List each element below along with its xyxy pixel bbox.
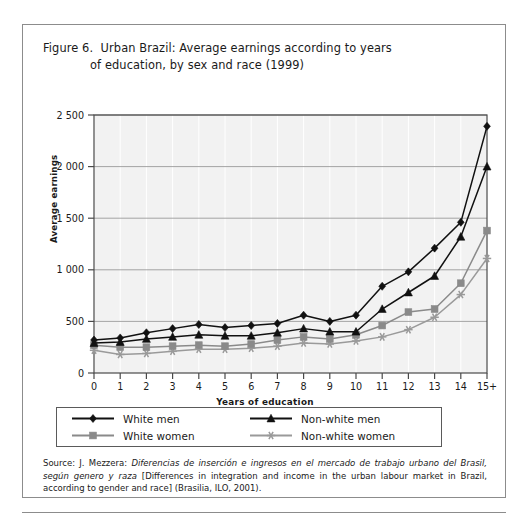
y-axis-tick-label: 500 <box>66 316 84 327</box>
legend-label: Non-white men <box>301 413 380 425</box>
square-marker <box>169 343 176 350</box>
chart-area: Average earnings 05001 0001 5002 0002 50… <box>23 83 507 393</box>
square-marker <box>379 322 386 329</box>
square-marker <box>326 336 333 343</box>
square-marker <box>431 306 438 313</box>
x-axis-tick-label: 6 <box>248 381 254 392</box>
x-axis-tick-label: 13 <box>428 381 440 392</box>
x-axis-tick-label: 12 <box>402 381 414 392</box>
diamond-marker <box>71 412 115 425</box>
figure-title: Figure 6. Urban Brazil: Average earnings… <box>43 40 473 74</box>
legend-label: White women <box>123 430 194 442</box>
square-marker <box>405 309 412 316</box>
legend-item-non-white-women: Non-white women <box>249 429 441 442</box>
x-axis-tick-label: 7 <box>274 381 280 392</box>
square-marker <box>248 341 255 348</box>
y-axis-tick-label: 1 000 <box>57 264 84 275</box>
x-axis-label: Years of education <box>23 397 507 407</box>
x-axis-tick-label: 8 <box>301 381 307 392</box>
plot-background <box>94 115 487 373</box>
asterisk-marker <box>249 429 293 442</box>
chart-legend: White menNon-white menWhite womenNon-whi… <box>56 407 442 447</box>
legend-item-non-white-men: Non-white men <box>249 412 441 425</box>
triangle-marker <box>249 412 293 425</box>
square-marker <box>484 227 491 234</box>
x-axis-tick-label: 0 <box>91 381 97 392</box>
x-axis-tick-label: 9 <box>327 381 333 392</box>
square-marker <box>71 429 115 442</box>
x-axis-tick-label: 3 <box>170 381 176 392</box>
legend-label: White men <box>123 413 180 425</box>
y-axis-tick-label: 2 000 <box>57 161 84 172</box>
x-axis-tick-label: 11 <box>376 381 388 392</box>
square-marker <box>300 333 307 340</box>
square-marker <box>222 343 229 350</box>
diamond-marker <box>90 415 97 423</box>
page-separator-rule <box>22 512 506 513</box>
legend-item-white-women: White women <box>71 429 249 442</box>
source-prefix: Source: J. Mezzera: <box>43 458 131 468</box>
y-axis-tick-label: 1 500 <box>57 213 84 224</box>
figure-title-line-1: Figure 6. Urban Brazil: Average earnings… <box>43 40 473 57</box>
figure-page: Figure 6. Urban Brazil: Average earnings… <box>0 0 528 522</box>
x-axis-tick-label: 5 <box>222 381 228 392</box>
source-note: Source: J. Mezzera: Diferencias de inser… <box>43 457 487 495</box>
figure-title-line-2: of education, by sex and race (1999) <box>43 57 473 74</box>
x-axis-tick-label: 4 <box>196 381 202 392</box>
square-marker <box>195 342 202 349</box>
y-axis-tick-label: 0 <box>78 368 84 379</box>
square-marker <box>143 344 150 351</box>
legend-label: Non-white women <box>301 430 395 442</box>
legend-item-white-men: White men <box>71 412 249 425</box>
x-axis-tick-label: 2 <box>143 381 149 392</box>
x-axis-tick-label: 15+ <box>477 381 497 392</box>
line-chart-svg: 05001 0001 5002 0002 5000123456789101112… <box>23 83 507 393</box>
square-marker <box>90 432 97 439</box>
square-marker <box>274 337 281 344</box>
x-axis-tick-label: 14 <box>455 381 467 392</box>
y-axis-tick-label: 2 500 <box>57 110 84 121</box>
square-marker <box>457 280 464 287</box>
figure-container: Figure 6. Urban Brazil: Average earnings… <box>22 24 506 498</box>
x-axis-tick-label: 10 <box>350 381 362 392</box>
x-axis-tick-label: 1 <box>117 381 123 392</box>
